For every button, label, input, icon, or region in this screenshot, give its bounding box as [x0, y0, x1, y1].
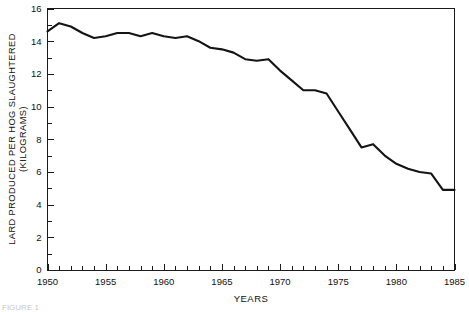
y-axis-tick-labels: 0246810121416: [31, 3, 42, 276]
y-axis-title-line1: LARD PRODUCED PER HOG SLAUGHTERED: [7, 33, 17, 245]
x-tick-label: 1980: [386, 276, 407, 287]
line-chart: 0246810121416 19501955196019651970197519…: [0, 0, 469, 312]
y-tick-label: 8: [36, 134, 41, 145]
data-series-line: [48, 23, 455, 190]
x-tick-label: 1950: [37, 276, 58, 287]
y-tick-label: 4: [36, 199, 41, 210]
x-axis-ticks: [49, 264, 456, 270]
x-tick-label: 1965: [211, 276, 232, 287]
y-tick-label: 12: [31, 68, 42, 79]
x-axis-tick-labels: 19501955196019651970197519801985: [37, 276, 465, 287]
y-axis-ticks: [48, 10, 54, 271]
plot-frame: [48, 9, 455, 271]
y-tick-label: 6: [36, 166, 41, 177]
y-tick-label: 16: [31, 3, 42, 14]
x-tick-label: 1975: [328, 276, 349, 287]
figure-caption: FIGURE 1: [2, 303, 39, 312]
x-axis-title: YEARS: [234, 293, 269, 304]
x-tick-label: 1985: [444, 276, 465, 287]
y-tick-label: 2: [36, 232, 41, 243]
y-tick-label: 10: [31, 101, 42, 112]
x-tick-label: 1970: [270, 276, 291, 287]
y-tick-label: 0: [36, 264, 41, 275]
y-axis-title: LARD PRODUCED PER HOG SLAUGHTERED (KILOG…: [7, 33, 28, 245]
figure-container: 0246810121416 19501955196019651970197519…: [0, 0, 469, 312]
x-tick-label: 1960: [153, 276, 174, 287]
y-tick-label: 14: [31, 36, 42, 47]
y-axis-title-line2: (KILOGRAMS): [18, 106, 28, 172]
x-tick-label: 1955: [95, 276, 116, 287]
